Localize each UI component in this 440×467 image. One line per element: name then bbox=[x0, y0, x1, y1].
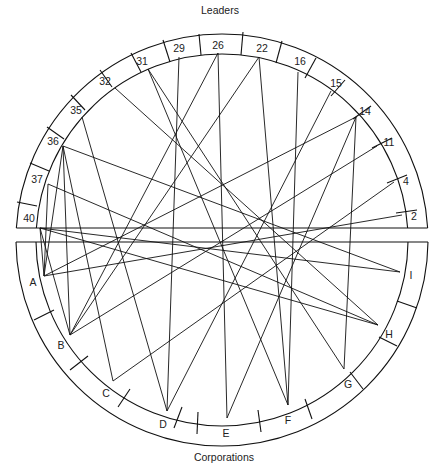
edge-37-H bbox=[48, 184, 378, 325]
leader-label-40: 40 bbox=[23, 212, 35, 224]
corporation-label-E: E bbox=[222, 427, 229, 439]
leader-label-15: 15 bbox=[330, 77, 342, 89]
leader-label-35: 35 bbox=[70, 104, 82, 116]
corporations-outer-arc bbox=[16, 242, 428, 446]
edge-40-B bbox=[40, 228, 70, 335]
leader-segment-divider bbox=[276, 41, 282, 63]
corporation-label-B: B bbox=[57, 339, 64, 351]
corporation-label-A: A bbox=[29, 276, 36, 288]
corporation-segment-divider bbox=[34, 310, 54, 320]
corporation-segment-divider bbox=[70, 356, 88, 370]
leader-label-36: 36 bbox=[47, 135, 59, 147]
leader-segment-divider bbox=[17, 202, 37, 206]
corporation-label-F: F bbox=[285, 414, 291, 426]
corporation-segment-divider bbox=[305, 399, 312, 419]
leader-label-14: 14 bbox=[359, 105, 371, 117]
corporation-label-I: I bbox=[410, 269, 413, 281]
edge-22-F bbox=[259, 57, 288, 405]
corporation-segment-divider bbox=[397, 301, 417, 308]
corporation-segment-divider bbox=[174, 407, 182, 428]
corporation-segment-divider bbox=[118, 389, 130, 407]
corporations-inner-arc bbox=[36, 242, 408, 426]
corporation-label-H: H bbox=[385, 328, 393, 340]
edge-40-I bbox=[40, 228, 400, 272]
edge-14-E bbox=[227, 117, 356, 418]
leader-corporation-network-diagram: 4037363532312926221615141142 ABCDEFGHI L… bbox=[0, 0, 440, 467]
leader-segment-divider bbox=[199, 34, 201, 55]
corporation-segment-divider bbox=[197, 412, 198, 434]
edge-26-B bbox=[70, 53, 218, 335]
corporation-segment-divider bbox=[258, 410, 261, 432]
corporation-label-G: G bbox=[344, 378, 352, 390]
leader-label-11: 11 bbox=[384, 136, 395, 148]
edge-14-G bbox=[344, 117, 356, 369]
leader-label-4: 4 bbox=[403, 175, 409, 187]
edge-11-B bbox=[70, 146, 377, 335]
corporation-labels: ABCDEFGHI bbox=[29, 269, 412, 439]
leader-segment-divider bbox=[163, 40, 170, 62]
leaders-title: Leaders bbox=[201, 4, 239, 16]
leader-segment-divider bbox=[305, 58, 316, 78]
edge-35-D bbox=[82, 117, 167, 411]
leader-label-32: 32 bbox=[99, 75, 111, 87]
leader-label-29: 29 bbox=[173, 42, 185, 54]
corporations-title: Corporations bbox=[194, 451, 254, 463]
edge-36-C bbox=[63, 146, 113, 381]
edge-16-F bbox=[288, 72, 298, 405]
edge-32-H bbox=[115, 88, 378, 325]
edge-14-A bbox=[44, 117, 356, 276]
leader-label-16: 16 bbox=[294, 55, 306, 67]
edge-4-C bbox=[113, 182, 394, 381]
edge-26-E bbox=[218, 53, 227, 418]
connection-lines bbox=[40, 53, 402, 418]
leader-label-31: 31 bbox=[136, 55, 148, 67]
edge-29-D bbox=[167, 57, 179, 411]
leader-label-37: 37 bbox=[31, 173, 43, 185]
corporation-label-C: C bbox=[102, 387, 110, 399]
leader-segment-divider bbox=[30, 163, 49, 171]
leader-label-22: 22 bbox=[256, 42, 268, 54]
corporation-label-D: D bbox=[159, 418, 167, 430]
corporations-ring bbox=[16, 242, 428, 446]
leader-label-26: 26 bbox=[212, 39, 224, 51]
leader-label-2: 2 bbox=[411, 210, 417, 222]
